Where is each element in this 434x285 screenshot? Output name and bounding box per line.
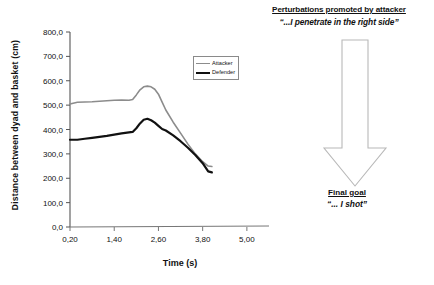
legend-swatch-defender xyxy=(196,72,210,74)
legend-label-attacker: Attacker xyxy=(212,59,233,68)
annotation-top-heading: Perturbations promoted by attacker xyxy=(244,5,434,14)
annotation-bottom-heading: Final goal xyxy=(292,188,402,197)
x-axis-line xyxy=(70,226,269,227)
annotation-bottom-quote: “... I shot” xyxy=(292,199,402,209)
x-tick-label: 3,80 xyxy=(195,235,211,244)
legend-item-defender: Defender xyxy=(196,68,235,77)
y-tick-label: 500,0 xyxy=(43,101,64,110)
annotation-bottom: Final goal “... I shot” xyxy=(292,188,402,209)
y-tick-label: 0,0 xyxy=(52,223,64,232)
annotation-top-quote: “...I penetrate in the right side” xyxy=(244,17,434,27)
legend-swatch-attacker xyxy=(196,63,210,64)
y-tick-label: 100,0 xyxy=(43,199,64,208)
chart-figure: Distance between dyad and basket (cm) Ti… xyxy=(0,0,270,285)
data-series-group xyxy=(70,86,212,172)
y-tick-label: 400,0 xyxy=(43,126,64,135)
y-tick-label: 200,0 xyxy=(43,174,64,183)
y-axis-ticks: 0,0100,0200,0300,0400,0500,0600,0700,080… xyxy=(43,28,70,232)
annotation-top: Perturbations promoted by attacker “...I… xyxy=(244,5,434,27)
x-tick-label: 5,00 xyxy=(239,235,255,244)
series-line-defender xyxy=(70,119,212,173)
series-line-attacker xyxy=(70,86,212,166)
legend-label-defender: Defender xyxy=(212,68,235,77)
y-tick-label: 600,0 xyxy=(43,77,64,86)
plot-area: 0,0100,0200,0300,0400,0500,0600,0700,080… xyxy=(0,0,270,250)
x-tick-label: 1,40 xyxy=(106,235,122,244)
x-tick-label: 0,20 xyxy=(62,235,78,244)
y-tick-label: 300,0 xyxy=(43,150,64,159)
y-tick-label: 700,0 xyxy=(43,52,64,61)
down-arrow-icon xyxy=(318,38,392,190)
x-axis-title: Time (s) xyxy=(120,258,240,268)
legend-item-attacker: Attacker xyxy=(196,59,235,68)
x-tick-label: 2,60 xyxy=(151,235,167,244)
chart-legend: Attacker Defender xyxy=(193,56,239,80)
x-axis-ticks: 0,201,402,603,805,00 xyxy=(62,227,255,244)
y-tick-label: 800,0 xyxy=(43,28,64,37)
